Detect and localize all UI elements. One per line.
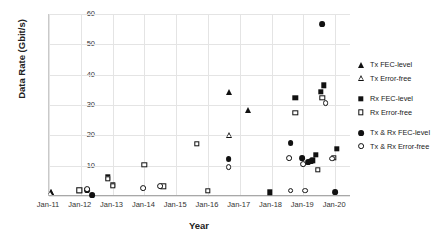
x-axis-tick-label: Jan-20 (314, 200, 354, 209)
data-point (84, 186, 90, 192)
gridline-vertical (49, 14, 50, 195)
data-point (288, 140, 294, 146)
gridline-vertical (176, 14, 177, 195)
gridline-horizontal (49, 135, 350, 136)
gridline-vertical (144, 14, 145, 195)
plot-area (48, 14, 350, 196)
gridline-vertical (208, 14, 209, 195)
gridline-vertical (335, 14, 336, 195)
gridline-horizontal (49, 105, 350, 106)
data-point (321, 83, 326, 88)
gridline-vertical (81, 14, 82, 195)
data-point (194, 141, 199, 146)
data-point (89, 192, 95, 198)
data-point (302, 188, 308, 194)
y-axis-title: Data Rate (Gbit/s) (15, 0, 29, 119)
data-point (293, 95, 298, 100)
scatter-chart: Data Rate (Gbit/s) Year 0102030405060 Ja… (0, 0, 447, 239)
legend-item-label: Tx & Rx Error-free (370, 140, 429, 154)
x-axis-title: Year (48, 220, 350, 231)
legend-item-label: Rx FEC-level (370, 92, 413, 106)
legend-item[interactable]: Rx Error-free (357, 106, 447, 120)
data-points-layer (49, 14, 350, 26)
data-point (318, 89, 323, 94)
legend-item-label: Rx Error-free (370, 106, 412, 120)
data-point (319, 21, 325, 27)
data-point (140, 185, 146, 191)
circle-open-icon (358, 143, 364, 149)
triangle-filled-icon (358, 62, 364, 68)
data-point (334, 146, 339, 151)
data-point (308, 158, 314, 164)
data-point (332, 189, 338, 195)
data-point (76, 188, 81, 193)
data-point (267, 190, 272, 195)
legend-item[interactable]: Tx & Rx FEC-level (357, 126, 447, 140)
data-point (286, 155, 292, 161)
legend-item-label: Tx FEC-level (370, 58, 412, 72)
gridline-horizontal (49, 14, 350, 15)
legend: Tx FEC-levelTx Error-freeRx FEC-levelRx … (357, 58, 447, 153)
data-point (226, 132, 232, 138)
square-filled-icon (358, 96, 363, 101)
data-point (288, 188, 294, 194)
data-point (48, 189, 54, 195)
gridline-horizontal (49, 44, 350, 45)
gridline-vertical (272, 14, 273, 195)
gridline-vertical (303, 14, 304, 195)
data-point (226, 156, 232, 162)
data-point (142, 162, 147, 167)
legend-item[interactable]: Tx & Rx Error-free (357, 140, 447, 154)
legend-item[interactable]: Tx Error-free (357, 72, 447, 86)
circle-filled-icon (358, 130, 364, 136)
data-point (110, 183, 115, 188)
legend-spacer (357, 85, 447, 92)
data-point (105, 176, 110, 181)
gridline-vertical (240, 14, 241, 195)
data-point (245, 107, 251, 113)
legend-item[interactable]: Rx FEC-level (357, 92, 447, 106)
triangle-open-icon (358, 75, 364, 81)
data-point (226, 89, 232, 95)
data-point (329, 156, 335, 162)
square-open-icon (358, 110, 363, 115)
data-point (205, 188, 210, 193)
gridline-horizontal (49, 75, 350, 76)
data-point (226, 165, 232, 171)
data-point (299, 155, 305, 161)
data-point (157, 183, 163, 189)
legend-spacer (357, 119, 447, 126)
data-point (323, 100, 329, 106)
legend-item[interactable]: Tx FEC-level (357, 58, 447, 72)
data-point (293, 110, 298, 115)
legend-item-label: Tx & Rx FEC-level (370, 126, 430, 140)
gridline-vertical (113, 14, 114, 195)
legend-item-label: Tx Error-free (370, 72, 411, 86)
data-point (300, 162, 306, 168)
data-point (315, 167, 320, 172)
